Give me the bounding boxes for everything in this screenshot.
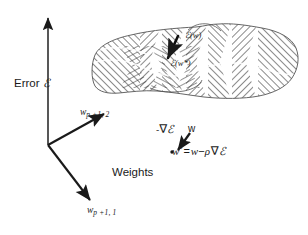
error-at-w-star-argument: (w*)	[175, 58, 191, 68]
negative-gradient-label: -∇ℰ	[156, 124, 174, 136]
weight-axis-2-subscript: p +1, 2	[86, 110, 109, 119]
weight-axis-1-subscript: p +1, 1	[93, 208, 116, 217]
current-weight-label: w	[188, 124, 195, 134]
error-at-w-label: ℰ(w)	[185, 31, 201, 40]
weights-plane-label: Weights	[112, 167, 153, 179]
weight-axis-1	[48, 145, 90, 200]
weight-axis-1-label: wp +1, 1	[87, 205, 116, 217]
equation-epsilon: ℰ	[219, 145, 226, 157]
epsilon-symbol: ℰ	[43, 77, 50, 89]
error-at-w-argument: (w)	[190, 30, 201, 40]
error-at-w-star-label: ℰ(w*)	[170, 59, 191, 68]
equation-nabla-icon: ∇	[211, 144, 219, 158]
current-weight-text: w	[188, 123, 195, 134]
figure-canvas	[0, 0, 308, 235]
equation-equals: =	[183, 145, 189, 157]
equation-rho: ρ	[205, 145, 210, 157]
error-surface-figure: Error ℰ Weights wp +1, 2 wp +1, 1 ℰ(w) ℰ…	[0, 0, 308, 235]
error-axis-label: Error ℰ	[14, 78, 50, 90]
weight-axis-2-label: wp +1, 2	[80, 107, 109, 119]
negative-gradient-epsilon: ℰ	[167, 123, 174, 135]
update-equation: w* = w−ρ ∇ℰ	[172, 146, 226, 158]
